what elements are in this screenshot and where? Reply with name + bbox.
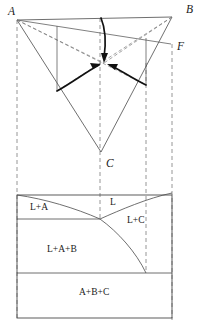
triangle-edge-BC (101, 17, 172, 152)
field-label-L-plus-C: L+C (127, 215, 145, 225)
arrowhead-eAC (90, 63, 101, 69)
cotectic-curve-eAB (101, 18, 105, 58)
triangle-edge-AC (17, 20, 101, 152)
figure-root: A B C F L L+A L+C L+A+B A+B+C (0, 0, 199, 328)
projection-lines-group (17, 18, 172, 320)
cotectic-curve-eAC (57, 65, 99, 91)
label-point-F: F (176, 40, 185, 52)
field-label-A-plus-B-plus-C: A+B+C (79, 287, 109, 297)
arrowhead-eAB (101, 53, 108, 63)
field-label-L-plus-A: L+A (30, 202, 48, 212)
field-label-L-plus-A-plus-B: L+A+B (47, 244, 77, 254)
cotectic-section-curve (100, 219, 146, 273)
isopleth-section-group: L L+A L+C L+A+B A+B+C (17, 193, 172, 318)
field-label-L: L (110, 197, 116, 207)
label-corner-A: A (7, 5, 16, 17)
label-corner-B: B (186, 3, 193, 15)
cotectic-curves-group (57, 18, 146, 91)
section-construction-group (17, 17, 172, 91)
label-corner-C: C (106, 157, 114, 169)
ternary-triangle-group (17, 17, 172, 152)
phase-diagram-svg: A B C F L L+A L+C L+A+B A+B+C (0, 0, 199, 328)
isopleth-box (17, 195, 172, 318)
triangle-edge-AB (17, 17, 172, 20)
